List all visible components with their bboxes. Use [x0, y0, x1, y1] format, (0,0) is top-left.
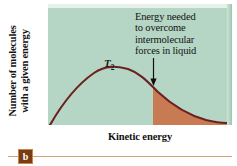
annotation-arrow-icon — [148, 58, 159, 87]
annotation-line-1: Energy needed — [135, 11, 217, 22]
x-axis-label: Kinetic energy — [48, 131, 232, 142]
curve-label-letter: T — [104, 57, 111, 69]
curve-label-subscript: 2 — [111, 63, 115, 72]
y-axis-label: Number of molecules with a given energy — [7, 13, 41, 129]
maxwell-boltzmann-distribution-figure: Number of molecules with a given energy … — [0, 0, 237, 166]
y-axis-label-line-1: Number of molecules — [7, 13, 19, 129]
distribution-curve — [50, 67, 227, 125]
annotation-line-3: intermolecular — [135, 34, 217, 45]
panel-bevel-right-edge — [227, 4, 232, 125]
annotation-line-4: forces in liquid — [135, 45, 217, 56]
annotation-text: Energy needed to overcome intermolecular… — [135, 11, 217, 57]
curve-label-t2: T2 — [104, 57, 114, 72]
panel-letter-badge: b — [19, 150, 32, 163]
figure-divider-rule — [8, 156, 232, 157]
y-axis-label-line-2: with a given energy — [19, 13, 31, 129]
annotation-line-2: to overcome — [135, 22, 217, 33]
